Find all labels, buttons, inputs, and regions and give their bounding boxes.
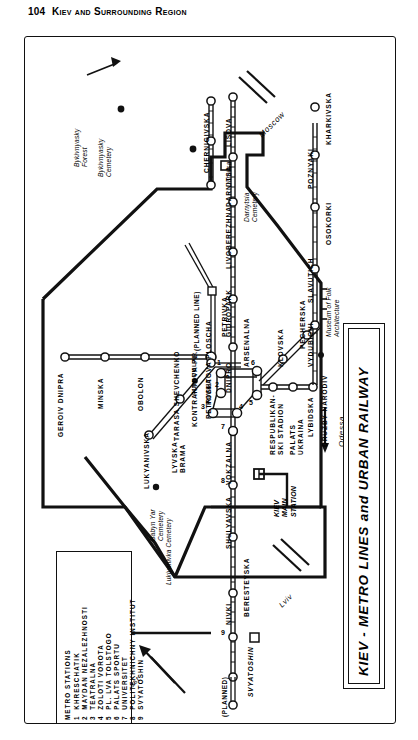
station-vydubichi: VYDUBICHI — [307, 323, 314, 367]
station-palats-ukraina: PALATS UKRAINA — [289, 418, 304, 455]
legend-item-6: 6 PALATS SPORTU — [113, 643, 120, 720]
station-pecherska: PECHERSKA — [299, 299, 306, 349]
marker-3: 3 — [201, 403, 205, 410]
marker-4: 4 — [239, 403, 243, 410]
label-bykivnyasky-cemetery: Bykivnyasky Cemetery — [97, 139, 112, 177]
running-head: Kiev and Surrounding Region — [52, 6, 187, 17]
legend-item-2: 2 MAYDAN NEZALEZHNOSTI — [81, 606, 88, 720]
station-geroiv-dnipra: GEROIV DNIPRA — [57, 373, 64, 437]
legend-item-9: 9 SVYATOSHIN — [137, 659, 144, 720]
legend-item-8: 8 POLITEKHNICHNY INSTITUT — [129, 598, 136, 720]
station-osokorki: OSOKORKI — [325, 202, 332, 245]
station-funicular: FUNICULAR — [191, 352, 197, 395]
marker-1: 1 — [217, 359, 221, 366]
marker-5: 5 — [249, 399, 253, 406]
legend-heading: METRO STATIONS — [64, 649, 71, 720]
station-kharkivska: KHARKIVSKA — [325, 92, 332, 145]
station-slavutich: SLAVUTICH — [307, 258, 314, 303]
legend-item-1: 1 KHRESCHATIK — [73, 652, 80, 720]
legend-metro-stations: METRO STATIONS 1 KHRESCHATIK 2 MAYDAN NE… — [56, 551, 132, 723]
station-svyatoshin: SVYATOSHIN — [247, 646, 254, 697]
marker-6: 6 — [251, 359, 255, 366]
legend-item-3: 3 TEATRALNA — [89, 662, 96, 720]
station-lybidska: LYBIDSKA — [307, 397, 314, 437]
marker-2: 2 — [215, 381, 219, 388]
map-canvas: Bykivnyasky Forest Bykivnyasky Cemetery … — [25, 37, 395, 723]
station-lukyanivska: LUKYANIVSKA — [143, 432, 150, 489]
station-darnitsa: DARNITSA — [225, 166, 232, 207]
station-minska: MINSKA — [97, 378, 104, 409]
station-vokzalna: VOKZALNA — [225, 441, 232, 485]
station-druzby-narodiv: DRUZBY NARODIV — [321, 375, 328, 447]
legend-item-5: 5 PL. LVA TOLSTOGO — [105, 632, 112, 720]
station-respublikanski-stadion: RESPUBLIKAN- SKI STADION — [269, 394, 284, 455]
label-bykivnyasky-forest: Bykivnyasky Forest — [73, 129, 88, 167]
legend-item-4: 4 ZOLOTI VOROTA — [97, 644, 104, 720]
station-beresteyska: BERESTEYSKA — [243, 558, 250, 617]
station-shulyavska: SHULYAVSKA — [225, 496, 232, 549]
map-plate: Bykivnyasky Forest Bykivnyasky Cemetery … — [24, 36, 396, 724]
station-nivki: NIVKI — [225, 603, 232, 625]
label-museum-folk-architecture: Museum of Folk Architecture — [325, 287, 340, 337]
label-lukiyanivka-cemetery: Lukiyanivka Cemetery — [165, 518, 172, 585]
legend-item-7: 7 UNIVERSITET — [121, 656, 128, 720]
label-babyn-yar-cemetery: Babyn Yar Cemetery — [149, 509, 164, 541]
station-obolon: OBOLON — [137, 377, 144, 411]
marker-7: 7 — [221, 423, 225, 430]
station-lisova: LISOVA — [225, 118, 232, 147]
label-planned-line: (PLANNED LINE) — [193, 291, 200, 351]
marker-8: 8 — [221, 477, 225, 484]
map-title: KIEV - METRO LINES and URBAN RAILWAY — [356, 367, 371, 676]
station-arsenalna: ARSENALNA — [243, 318, 250, 368]
page-number: 104 — [28, 6, 45, 17]
station-poznyaki: POZNYAKI — [307, 148, 314, 189]
station-tarasa-shevchenko: TARASA SHEVCHENKO — [173, 351, 180, 441]
page-header: 104 Kiev and Surrounding Region — [0, 0, 418, 28]
label-kiev-main-station: KIEV MAIN STATION — [273, 486, 298, 517]
station-livoberezhna: LIVOBEREZHNA — [225, 206, 232, 269]
station-chernigivska: CHERNIGIVSKA — [203, 112, 210, 173]
label-planned: (PLANNED) — [221, 676, 228, 717]
station-gidropark: GIDROPARK — [225, 289, 232, 337]
station-lyvska-brama: LYVSKA BRAMA — [171, 441, 186, 473]
station-poshtova: POSHTOVA PLOSCHA — [205, 320, 212, 405]
station-dnipro: DNIPRO — [225, 362, 232, 393]
station-klovska: KLOVSKA — [277, 328, 284, 367]
map-title-plaque: KIEV - METRO LINES and URBAN RAILWAY — [343, 323, 385, 689]
marker-9: 9 — [221, 629, 225, 636]
label-darnytsia-cemetery: Darnytsia Cemetery — [243, 192, 258, 222]
